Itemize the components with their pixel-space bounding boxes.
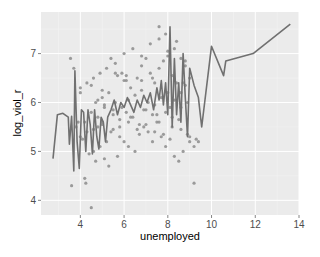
data-point — [101, 89, 104, 92]
data-point — [140, 64, 143, 67]
y-tick-label: 7 — [30, 48, 36, 59]
data-point — [164, 145, 167, 148]
data-point — [149, 42, 152, 45]
data-point — [151, 140, 154, 143]
data-point — [112, 128, 115, 131]
data-point — [103, 157, 106, 160]
chart: 468101214 4567 unemployed log_viol_r — [0, 0, 320, 257]
data-point — [79, 86, 82, 89]
data-point — [94, 101, 97, 104]
x-tick-label: 6 — [121, 219, 127, 230]
data-point — [179, 128, 182, 131]
data-point — [133, 150, 136, 153]
data-point — [168, 138, 171, 141]
data-point — [96, 98, 99, 101]
data-point — [160, 135, 163, 138]
data-point — [157, 67, 160, 70]
data-point — [175, 40, 178, 43]
data-point — [90, 84, 93, 87]
data-point — [118, 118, 121, 121]
data-point — [136, 128, 139, 131]
data-point — [70, 184, 73, 187]
data-point — [151, 76, 154, 79]
data-point — [122, 140, 125, 143]
y-axis-title: log_viol_r — [11, 89, 23, 136]
data-point — [195, 138, 198, 141]
y-tick-label: 4 — [30, 195, 36, 206]
data-point — [131, 47, 134, 50]
x-tick-label: 14 — [293, 219, 305, 230]
data-point — [109, 57, 112, 60]
data-point — [107, 164, 110, 167]
data-point — [122, 52, 125, 55]
data-point — [133, 94, 136, 97]
data-point — [140, 54, 143, 57]
data-point — [83, 177, 86, 180]
data-point — [173, 155, 176, 158]
data-point — [85, 81, 88, 84]
data-point — [120, 72, 123, 75]
data-point — [188, 135, 191, 138]
data-point — [173, 47, 176, 50]
y-axis: 4567 — [30, 48, 41, 206]
y-tick-label: 6 — [30, 97, 36, 108]
data-point — [90, 111, 93, 114]
data-point — [90, 206, 93, 209]
data-point — [179, 57, 182, 60]
data-point — [151, 113, 154, 116]
data-point — [94, 160, 97, 163]
data-point — [136, 76, 139, 79]
x-tick-label: 12 — [250, 219, 262, 230]
data-point — [138, 123, 141, 126]
data-point — [116, 74, 119, 77]
data-point — [127, 120, 130, 123]
data-point — [112, 113, 115, 116]
data-point — [107, 91, 110, 94]
x-tick-label: 10 — [206, 219, 218, 230]
data-point — [116, 155, 119, 158]
data-point — [144, 57, 147, 60]
data-point — [162, 133, 165, 136]
data-point — [144, 123, 147, 126]
data-point — [81, 138, 84, 141]
data-point — [142, 125, 145, 128]
data-point — [192, 182, 195, 185]
data-point — [84, 182, 87, 185]
data-point — [140, 79, 143, 82]
data-point — [164, 111, 167, 114]
data-point — [125, 74, 128, 77]
data-point — [129, 86, 132, 89]
data-point — [88, 152, 91, 155]
data-point — [153, 81, 156, 84]
x-tick-label: 8 — [165, 219, 171, 230]
data-point — [153, 130, 156, 133]
data-point — [103, 103, 106, 106]
data-point — [197, 140, 200, 143]
data-point — [138, 133, 141, 136]
data-point — [114, 72, 117, 75]
x-axis: 468101214 — [78, 215, 305, 230]
data-point — [162, 59, 165, 62]
data-point — [182, 150, 185, 153]
data-point — [155, 113, 158, 116]
data-point — [142, 108, 145, 111]
data-point — [125, 111, 128, 114]
data-point — [177, 160, 180, 163]
data-point — [127, 145, 130, 148]
data-point — [140, 89, 143, 92]
data-point — [96, 116, 99, 119]
data-point — [188, 140, 191, 143]
data-point — [101, 96, 104, 99]
data-point — [98, 72, 101, 75]
x-axis-title: unemployed — [140, 230, 200, 242]
data-point — [192, 145, 195, 148]
data-point — [114, 62, 117, 65]
data-point — [157, 120, 160, 123]
y-tick-label: 5 — [30, 146, 36, 157]
data-point — [118, 125, 121, 128]
data-point — [69, 57, 72, 60]
data-point — [129, 116, 132, 119]
data-point — [105, 67, 108, 70]
x-tick-label: 4 — [78, 219, 84, 230]
data-point — [164, 32, 167, 35]
